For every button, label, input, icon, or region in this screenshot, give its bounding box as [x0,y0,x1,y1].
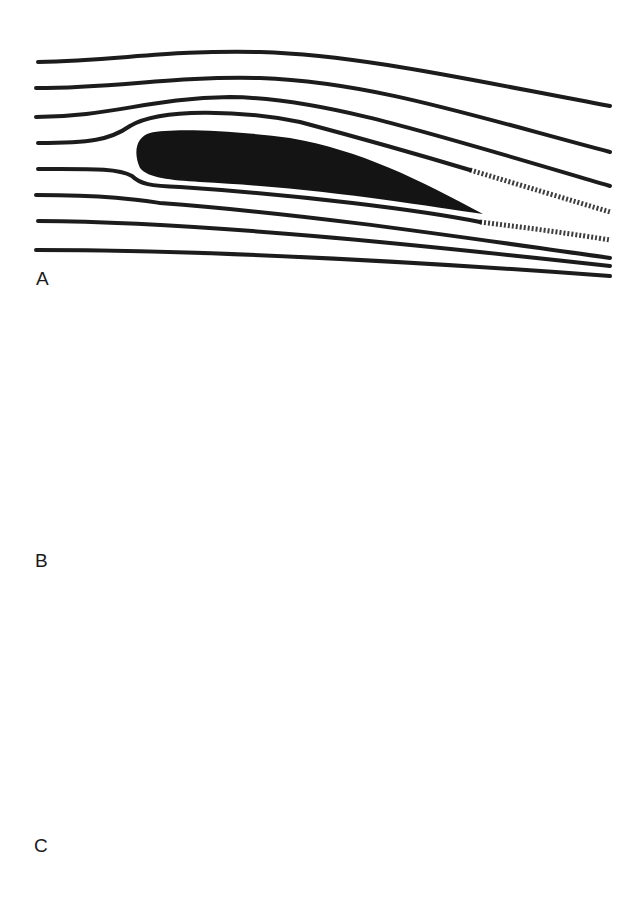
airfoil-a [136,130,483,214]
panel-label-a: A [36,268,49,290]
panel-label-c: C [34,835,48,857]
panel-a [36,52,610,276]
airflow-diagram [0,0,640,922]
panel-label-b: B [35,550,48,572]
